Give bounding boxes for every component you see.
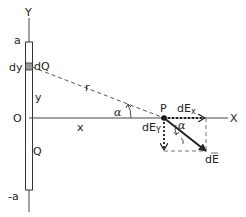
diagram-canvas: Y a dy dQ y O Q -a r x α P X dEx dEY α d… <box>0 0 246 217</box>
r-label: r <box>85 81 90 94</box>
x-distance-label: x <box>77 121 84 134</box>
charged-rod-diagram: Y a dy dQ y O Q -a r x α P X dEx dEY α d… <box>0 0 246 217</box>
y-distance-label: y <box>35 91 42 104</box>
charge-label: Q <box>33 145 42 158</box>
dex-label: dEx <box>177 102 196 116</box>
r-line <box>32 67 164 118</box>
p-label: P <box>160 102 167 115</box>
bottom-label: -a <box>8 190 19 203</box>
angle-mark <box>181 138 183 144</box>
y-axis-label: Y <box>24 6 32 19</box>
dy-label: dy <box>9 61 23 74</box>
dq-label: dQ <box>34 60 50 73</box>
de-label: dE <box>205 153 219 166</box>
alpha-left-label: α <box>114 106 122 119</box>
charge-element-dq <box>26 63 33 70</box>
x-axis-label: X <box>230 112 238 125</box>
top-label: a <box>14 34 21 47</box>
alpha-right-label: α <box>178 119 186 132</box>
dey-label: dEY <box>142 121 161 135</box>
origin-label: O <box>13 112 22 125</box>
